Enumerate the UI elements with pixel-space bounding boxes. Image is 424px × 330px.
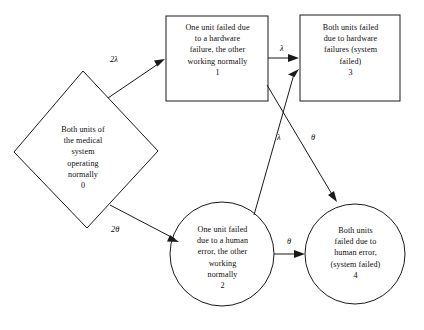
- state-transition-diagram: Both units of the medical system operati…: [0, 0, 424, 330]
- edge-2-to-4: [274, 250, 305, 258]
- edge-label-1-to-3: λ: [280, 44, 284, 53]
- state-node-2-circle[interactable]: [170, 202, 274, 306]
- state-node-4-circle[interactable]: [305, 204, 405, 304]
- diagram-canvas: [0, 0, 424, 330]
- edge-0-to-2: [110, 205, 179, 242]
- edge-1-to-4: [267, 85, 337, 202]
- edge-label-1-to-4: θ: [311, 133, 315, 142]
- edge-label-2-to-3: λ: [277, 133, 281, 142]
- state-node-0-diamond[interactable]: [14, 71, 158, 228]
- state-node-1-rect[interactable]: [166, 16, 268, 101]
- edge-label-0-to-1: 2λ: [110, 55, 118, 64]
- state-node-3-rect[interactable]: [300, 15, 400, 101]
- edge-0-to-1: [108, 59, 165, 98]
- edge-1-to-3: [268, 54, 299, 62]
- edge-label-0-to-2: 2θ: [111, 225, 119, 234]
- edge-label-2-to-4: θ: [287, 237, 291, 246]
